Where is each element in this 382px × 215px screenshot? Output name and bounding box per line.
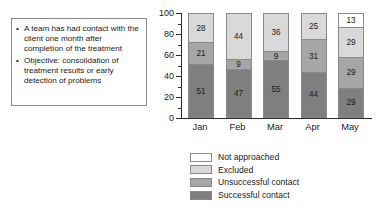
bullet-list: • A team has had contact with the client… <box>16 24 142 86</box>
bar-segment: 55 <box>263 60 289 118</box>
legend-swatch-icon <box>190 178 212 187</box>
bar-stack: 253144 <box>301 13 327 118</box>
list-item: • Objective: consolidation of treatment … <box>16 56 142 87</box>
list-item: • A team has had contact with the client… <box>16 24 142 55</box>
chart-legend: Not approachedExcludedUnsuccessful conta… <box>190 151 299 201</box>
bar-segment: 9 <box>226 59 252 68</box>
legend-item: Not approached <box>190 151 299 164</box>
bar-stack: 13292929 <box>338 13 364 118</box>
stacked-bar-chart: 020406080100 282151449473695525314413292… <box>152 6 380 146</box>
bar-segment: 9 <box>263 51 289 60</box>
legend-item: Unsuccessful contact <box>190 176 299 189</box>
bar-segment: 31 <box>301 39 327 72</box>
legend-swatch-icon <box>190 165 212 174</box>
y-axis-tick-label: 40 <box>164 71 174 81</box>
bar-segment: 29 <box>338 27 364 57</box>
bar-segment: 44 <box>301 72 327 118</box>
legend-item: Excluded <box>190 164 299 177</box>
x-axis-label: Mar <box>255 122 295 132</box>
legend-swatch-icon <box>190 153 212 162</box>
y-axis-tick-label: 0 <box>169 113 174 123</box>
bar-stack: 44947 <box>226 13 252 118</box>
plot-area: 282151449473695525314413292929 <box>182 13 370 118</box>
legend-item: Successful contact <box>190 189 299 202</box>
bar-segment: 13 <box>338 13 364 27</box>
x-axis-label: Feb <box>218 122 258 132</box>
list-item-text: A team has had contact with the client o… <box>24 24 142 55</box>
bar-stack: 36955 <box>263 13 289 118</box>
legend-item-label: Successful contact <box>218 190 290 200</box>
bar-segment: 29 <box>338 57 364 87</box>
legend-swatch-icon <box>190 191 212 200</box>
x-axis-label: Jan <box>180 122 220 132</box>
x-axis-label: Apr <box>293 122 333 132</box>
x-axis-line <box>181 118 372 119</box>
y-axis-tick-label: 60 <box>164 50 174 60</box>
bullet-dot-icon: • <box>16 24 24 34</box>
x-axis-label: May <box>330 122 370 132</box>
legend-item-label: Not approached <box>218 152 279 162</box>
bar-stack: 282151 <box>188 13 214 118</box>
bar-segment: 36 <box>263 13 289 51</box>
y-axis-tick-label: 100 <box>159 8 174 18</box>
y-axis-tick-label: 80 <box>164 29 174 39</box>
list-item-text: Objective: consolidation of treatment re… <box>24 56 142 87</box>
bar-segment: 21 <box>188 42 214 64</box>
bar-segment: 29 <box>338 88 364 118</box>
bar-segment: 28 <box>188 13 214 42</box>
bullet-dot-icon: • <box>16 56 24 66</box>
bar-segment: 51 <box>188 64 214 118</box>
info-text-box: • A team has had contact with the client… <box>11 18 147 106</box>
legend-item-label: Unsuccessful contact <box>218 177 299 187</box>
y-axis-tick <box>176 118 182 119</box>
bar-segment: 44 <box>226 13 252 59</box>
legend-item-label: Excluded <box>218 165 253 175</box>
y-axis-tick-label: 20 <box>164 92 174 102</box>
bar-segment: 25 <box>301 13 327 39</box>
bar-segment: 47 <box>226 69 252 118</box>
